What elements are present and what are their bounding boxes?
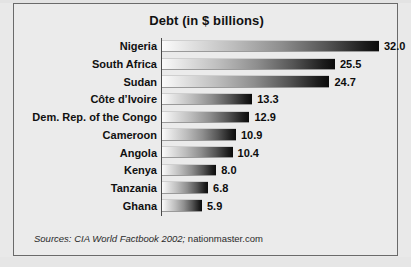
bar-track	[162, 58, 335, 70]
bar-track	[162, 146, 233, 158]
bar-row: Cameroon10.9	[14, 126, 399, 144]
bar-track	[162, 40, 379, 52]
bar-track	[162, 164, 216, 176]
scan-edge-bottom	[0, 257, 411, 267]
bar-track	[162, 199, 202, 211]
bar-row: Tanzania6.8	[14, 179, 399, 197]
bar-track	[162, 93, 252, 105]
value-label: 10.9	[241, 129, 262, 141]
value-label: 25.5	[340, 58, 361, 70]
chart-title: Debt (in $ billions)	[14, 13, 399, 28]
value-label: 8.0	[221, 164, 236, 176]
source-note-italic: Sources: CIA World Factbook 2002;	[34, 233, 185, 244]
bar	[162, 181, 208, 193]
chart-frame: Debt (in $ billions) Nigeria32.0South Af…	[13, 3, 398, 256]
bar	[162, 164, 216, 176]
category-label: Kenya	[14, 164, 157, 176]
bar-row: South Africa25.5	[14, 55, 399, 73]
bar-track	[162, 75, 329, 87]
bar	[162, 111, 249, 123]
value-label: 13.3	[257, 93, 278, 105]
bar	[162, 128, 236, 140]
value-label: 6.8	[213, 182, 228, 194]
value-label: 32.0	[384, 40, 405, 52]
bar-track	[162, 111, 249, 123]
category-label: Sudan	[14, 76, 157, 88]
value-label: 10.4	[238, 147, 259, 159]
plot-area: Nigeria32.0South Africa25.5Sudan24.7Côte…	[14, 36, 399, 218]
category-label: Ghana	[14, 200, 157, 212]
value-label: 24.7	[334, 76, 355, 88]
bar-row: Côte d’Ivoire13.3	[14, 91, 399, 109]
source-note-roman: nationmaster.com	[185, 233, 263, 244]
bar	[162, 75, 329, 87]
category-label: Côte d’Ivoire	[14, 93, 157, 105]
value-label: 5.9	[207, 200, 222, 212]
debt-chart-figure: Debt (in $ billions) Nigeria32.0South Af…	[0, 0, 411, 267]
category-label: South Africa	[14, 58, 157, 70]
category-label: Angola	[14, 147, 157, 159]
value-label: 12.9	[254, 111, 275, 123]
bar-row: Sudan24.7	[14, 73, 399, 91]
bar-track	[162, 128, 236, 140]
bar	[162, 58, 335, 70]
bar-row: Kenya8.0	[14, 161, 399, 179]
category-label: Cameroon	[14, 129, 157, 141]
bar-row: Dem. Rep. of the Congo12.9	[14, 108, 399, 126]
bar-row: Nigeria32.0	[14, 38, 399, 56]
bar-track	[162, 181, 208, 193]
bar	[162, 199, 202, 211]
category-label: Nigeria	[14, 40, 157, 52]
category-label: Tanzania	[14, 182, 157, 194]
bar	[162, 93, 252, 105]
bar	[162, 40, 379, 52]
source-note: Sources: CIA World Factbook 2002; nation…	[34, 233, 263, 244]
category-label: Dem. Rep. of the Congo	[14, 111, 157, 123]
bar	[162, 146, 233, 158]
bar-row: Angola10.4	[14, 144, 399, 162]
bar-row: Ghana5.9	[14, 197, 399, 215]
